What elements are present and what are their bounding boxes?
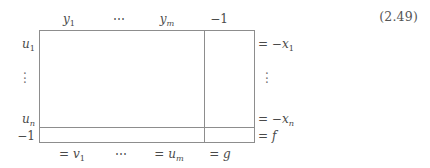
vertical-ellipsis-right-icon: · · ·: [263, 72, 271, 86]
row-value-negative-x1-subscript: 1: [289, 43, 294, 53]
row-label-u1: u1: [4, 38, 35, 50]
column-footer-ellipsis: ⋯: [108, 148, 134, 160]
tableau-horizontal-divider: [40, 127, 254, 128]
column-footer-g-prefix: =: [209, 147, 223, 161]
column-header-y1-subscript: 1: [70, 18, 75, 28]
column-header-ellipsis: ⋯: [106, 13, 132, 25]
row-value-f: = f: [258, 130, 276, 142]
row-value-f-text: f: [272, 129, 276, 143]
column-footer-v1-text: v: [73, 147, 80, 161]
row-value-negative-xn-prefix: = −: [258, 112, 282, 126]
row-value-f-prefix: =: [258, 129, 272, 143]
vertical-ellipsis-left-icon: · · ·: [21, 72, 29, 86]
column-footer-g-text: g: [223, 147, 231, 161]
row-value-negative-x1-prefix: = −: [258, 37, 282, 51]
vertical-ellipsis-right-dot-3: ·: [263, 81, 271, 86]
row-value-negative-xn-subscript: n: [289, 118, 294, 128]
row-label-negative-one: −1: [4, 130, 35, 142]
row-value-negative-xn-text: x: [282, 112, 289, 126]
row-value-negative-x1: = −x1: [258, 38, 294, 50]
column-footer-um-text: u: [168, 147, 176, 161]
equation-number: (2.49): [379, 9, 418, 24]
column-footer-g: = g: [203, 148, 237, 160]
column-footer-um: = um: [148, 148, 190, 160]
vertical-ellipsis-left-dot-3: ·: [21, 81, 29, 86]
row-value-negative-xn: = −xn: [258, 113, 294, 125]
column-footer-um-prefix: =: [154, 147, 168, 161]
column-header-y1-text: y: [63, 12, 70, 26]
tableau-vertical-divider: [204, 31, 205, 142]
row-label-u1-text: u: [22, 37, 30, 51]
column-footer-v1: = v1: [52, 148, 92, 160]
column-header-negative-one: −1: [204, 13, 234, 25]
tableau-frame: [39, 30, 255, 143]
column-footer-v1-subscript: 1: [80, 153, 85, 163]
row-label-u1-subscript: 1: [30, 43, 35, 53]
column-header-ym-text: y: [160, 12, 167, 26]
column-footer-um-subscript: m: [176, 153, 184, 163]
column-header-ym-subscript: m: [167, 18, 175, 28]
column-footer-v1-prefix: =: [59, 147, 73, 161]
column-header-y1: y1: [56, 13, 82, 25]
row-label-un-text: u: [22, 112, 30, 126]
column-header-ym: ym: [152, 13, 182, 25]
row-label-un-subscript: n: [30, 118, 35, 128]
row-value-negative-x1-text: x: [282, 37, 289, 51]
row-label-un: un: [4, 113, 35, 125]
